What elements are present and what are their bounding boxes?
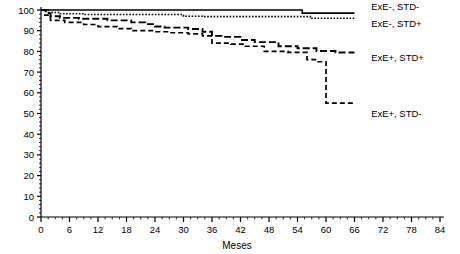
x-axis-tick-label: 18	[121, 224, 132, 235]
x-axis-tick-label: 6	[67, 224, 72, 235]
y-axis-tick-label: 80	[23, 46, 34, 57]
y-axis-tick-label: 50	[23, 108, 34, 119]
x-axis-tick-label: 78	[406, 224, 417, 235]
x-axis-tick-label: 12	[93, 224, 104, 235]
y-axis-tick-label: 20	[23, 170, 34, 181]
chart-legend: ExE-, STD-ExE-, STD+ExE+, STD+ExE+, STD-	[371, 1, 424, 119]
x-axis: 0612182430364248546066727884	[38, 217, 445, 235]
y-axis-tick-label: 70	[23, 67, 34, 78]
x-axis-tick-label: 60	[321, 224, 332, 235]
y-axis-tick-label: 100	[18, 5, 34, 16]
series-line	[41, 10, 355, 103]
series-line	[41, 10, 355, 13]
legend-label: ExE+, STD+	[371, 52, 424, 63]
x-axis-tick-label: 30	[178, 224, 189, 235]
legend-label: ExE+, STD-	[371, 108, 421, 119]
series-line	[41, 10, 355, 18]
y-axis: 0102030405060708090100	[18, 5, 41, 223]
x-axis-tick-label: 54	[292, 224, 303, 235]
x-axis-tick-label: 0	[38, 224, 43, 235]
x-axis-title: Meses	[222, 240, 251, 251]
legend-label: ExE-, STD+	[371, 18, 422, 29]
series-lines	[41, 10, 355, 103]
x-axis-tick-label: 66	[349, 224, 360, 235]
x-axis-tick-label: 36	[207, 224, 218, 235]
y-axis-tick-label: 40	[23, 129, 34, 140]
y-axis-tick-label: 60	[23, 87, 34, 98]
kaplan-meier-chart: 0102030405060708090100 06121824303642485…	[0, 0, 460, 254]
x-axis-tick-label: 72	[378, 224, 389, 235]
x-axis-tick-label: 84	[435, 224, 446, 235]
legend-label: ExE-, STD-	[371, 1, 419, 12]
y-axis-tick-label: 90	[23, 25, 34, 36]
y-axis-tick-label: 10	[23, 191, 34, 202]
x-axis-tick-label: 42	[235, 224, 246, 235]
y-axis-tick-label: 30	[23, 149, 34, 160]
chart-canvas: 0102030405060708090100 06121824303642485…	[0, 0, 460, 254]
x-axis-tick-label: 48	[264, 224, 275, 235]
x-axis-tick-label: 24	[150, 224, 161, 235]
y-axis-tick-label: 0	[29, 212, 34, 223]
